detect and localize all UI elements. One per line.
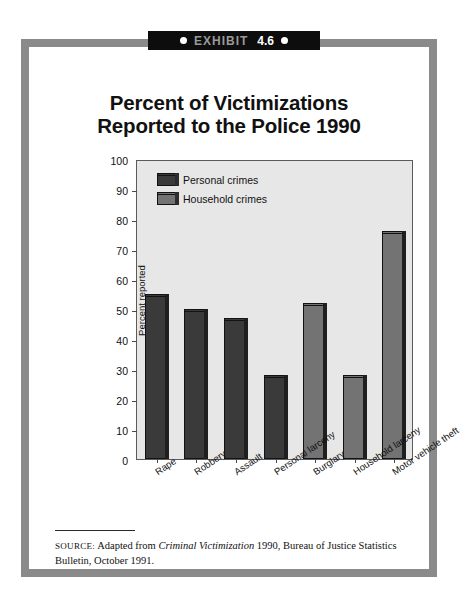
x-axis-tick-mark [196, 459, 197, 463]
source-text-before: Adapted from [95, 540, 158, 551]
legend-item-personal-crimes: Personal crimes [157, 171, 267, 188]
legend-label-personal-crimes: Personal crimes [183, 174, 258, 186]
bar-chart: Percent reported 0102030405060708090100 … [29, 47, 445, 585]
legend-label-household-crimes: Household crimes [183, 193, 267, 205]
bar [224, 318, 245, 459]
y-axis-tick-mark [132, 341, 137, 342]
source-divider [55, 530, 135, 531]
y-axis-tick-mark [132, 251, 137, 252]
exhibit-label: EXHIBIT [194, 34, 248, 48]
banner-dot-right-icon [281, 37, 288, 44]
x-axis-tick-mark [157, 459, 158, 463]
source-note: SOURCE: Adapted from Criminal Victimizat… [55, 539, 417, 567]
bar [145, 294, 166, 459]
x-axis-tick-mark [276, 459, 277, 463]
y-axis-tick-mark [132, 371, 137, 372]
chart-legend: Personal crimes Household crimes [157, 171, 267, 209]
y-axis-tick-mark [132, 431, 137, 432]
y-axis-tick-label: 70 [88, 245, 137, 257]
y-axis-tick-label: 20 [88, 395, 137, 407]
x-axis-tick-mark [394, 459, 395, 463]
exhibit-banner: EXHIBIT 4.6 [148, 31, 320, 50]
y-axis-tick-label: 90 [88, 185, 137, 197]
legend-item-household-crimes: Household crimes [157, 190, 267, 207]
plot-area: Percent reported 0102030405060708090100 … [136, 160, 413, 460]
y-axis-tick-mark [132, 401, 137, 402]
bar [264, 375, 285, 459]
y-axis-tick-mark [132, 281, 137, 282]
y-axis-tick-label: 40 [88, 335, 137, 347]
source-prefix: SOURCE: [55, 541, 95, 551]
x-axis-tick-mark [355, 459, 356, 463]
y-axis-tick-mark [132, 221, 137, 222]
y-axis-tick-mark [132, 191, 137, 192]
y-axis-tick-label: 100 [88, 155, 137, 167]
y-axis-tick-label: 10 [88, 425, 137, 437]
y-axis-tick-label: 0 [88, 455, 137, 467]
source-title-italic: Criminal Victimization [158, 540, 254, 551]
legend-swatch-household-crimes [157, 192, 176, 205]
y-axis-tick-label: 60 [88, 275, 137, 287]
banner-dot-left-icon [180, 37, 187, 44]
bar [382, 231, 403, 459]
y-axis-tick-label: 30 [88, 365, 137, 377]
x-axis-tick-mark [236, 459, 237, 463]
bar [184, 309, 205, 459]
x-axis-tick-mark [315, 459, 316, 463]
y-axis-tick-mark [132, 311, 137, 312]
y-axis-tick-label: 50 [88, 305, 137, 317]
bar [343, 375, 364, 459]
y-axis-tick-label: 80 [88, 215, 137, 227]
legend-swatch-personal-crimes [157, 173, 176, 186]
exhibit-number: 4.6 [257, 34, 274, 48]
